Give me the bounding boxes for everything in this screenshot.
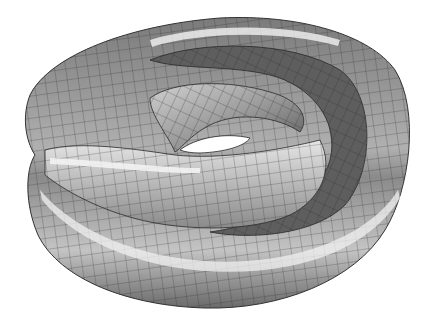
twisted-surface-render	[0, 0, 427, 326]
figure-canvas	[0, 0, 427, 326]
